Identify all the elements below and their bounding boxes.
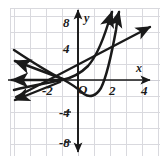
y-axis-label: y <box>84 12 89 24</box>
figure-background <box>0 0 162 157</box>
x-axis-label: x <box>136 62 142 74</box>
y-tick-label--8: -8 <box>59 136 70 149</box>
coordinate-plane <box>0 0 162 157</box>
y-tick-label--4: -4 <box>59 106 70 119</box>
graph-figure: x y O -2 2 4 8 4 -4 -8 <box>0 0 162 157</box>
x-tick-label-4: 4 <box>141 84 148 97</box>
origin-label: O <box>78 83 87 96</box>
x-tick-label-2: 2 <box>109 84 116 97</box>
x-tick-label--2: -2 <box>42 84 53 97</box>
y-tick-label-4: 4 <box>63 42 70 55</box>
y-tick-label-8: 8 <box>63 16 70 29</box>
